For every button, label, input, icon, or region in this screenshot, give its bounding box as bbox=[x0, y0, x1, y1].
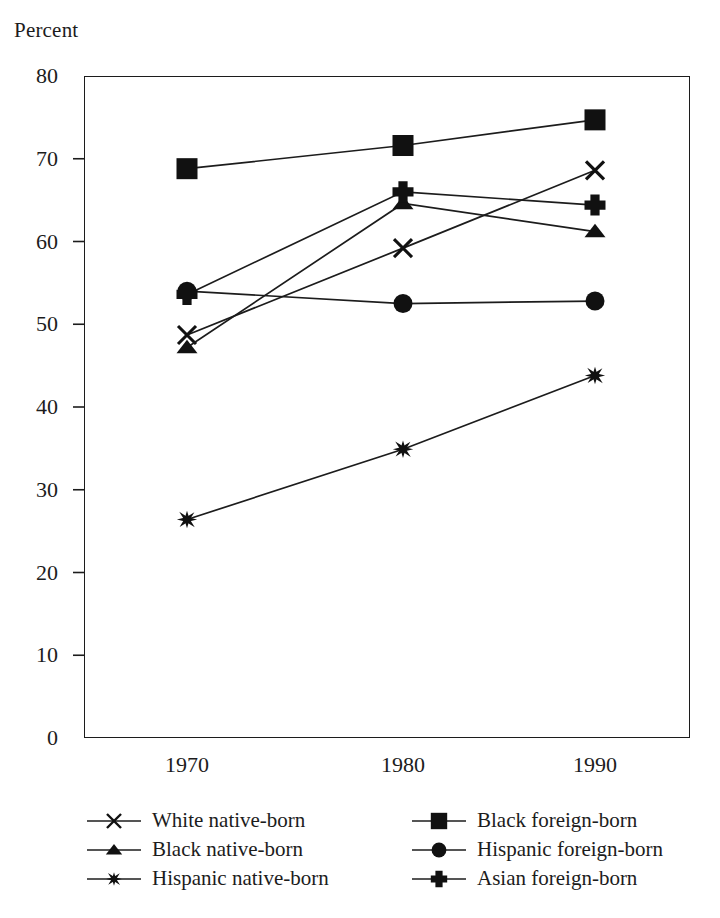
y-tick-label-10: 10 bbox=[6, 642, 58, 668]
square-icon bbox=[411, 810, 467, 832]
chart-legend: White native-bornBlack foreign-bornBlack… bbox=[86, 806, 646, 893]
plus-thick-icon bbox=[411, 868, 467, 890]
y-tick-label-30: 30 bbox=[6, 477, 58, 503]
x-tick-label-1980: 1980 bbox=[343, 752, 463, 778]
legend-entry-black-native-born[interactable]: Black native-born bbox=[86, 835, 411, 864]
six-point-star-icon bbox=[86, 868, 142, 890]
x-tick-label-1990: 1990 bbox=[535, 752, 655, 778]
legend-label: Black native-born bbox=[142, 837, 303, 862]
triangle-up-icon bbox=[86, 839, 142, 861]
y-tick-label-20: 20 bbox=[6, 560, 58, 586]
legend-label: Hispanic foreign-born bbox=[467, 837, 663, 862]
legend-entry-black-foreign-born[interactable]: Black foreign-born bbox=[411, 806, 720, 835]
y-tick-label-80: 80 bbox=[6, 63, 58, 89]
legend-entry-white-native-born[interactable]: White native-born bbox=[86, 806, 411, 835]
legend-label: Asian foreign-born bbox=[467, 866, 637, 891]
circle-icon bbox=[411, 839, 467, 861]
plot-area-frame bbox=[84, 76, 690, 738]
y-tick-label-60: 60 bbox=[6, 229, 58, 255]
chart-figure: Percent 01020304050607080 197019801990 W… bbox=[0, 0, 720, 918]
x-cross-icon bbox=[86, 810, 142, 832]
y-tick-label-70: 70 bbox=[6, 146, 58, 172]
x-tick-label-1970: 1970 bbox=[127, 752, 247, 778]
legend-label: White native-born bbox=[142, 808, 305, 833]
legend-label: Black foreign-born bbox=[467, 808, 637, 833]
legend-entry-asian-foreign-born[interactable]: Asian foreign-born bbox=[411, 864, 720, 893]
y-tick-label-50: 50 bbox=[6, 311, 58, 337]
legend-label: Hispanic native-born bbox=[142, 866, 329, 891]
y-axis-title: Percent bbox=[14, 18, 78, 43]
legend-entry-hispanic-native-born[interactable]: Hispanic native-born bbox=[86, 864, 411, 893]
y-tick-label-0: 0 bbox=[6, 725, 58, 751]
legend-entry-hispanic-foreign-born[interactable]: Hispanic foreign-born bbox=[411, 835, 720, 864]
y-tick-label-40: 40 bbox=[6, 394, 58, 420]
